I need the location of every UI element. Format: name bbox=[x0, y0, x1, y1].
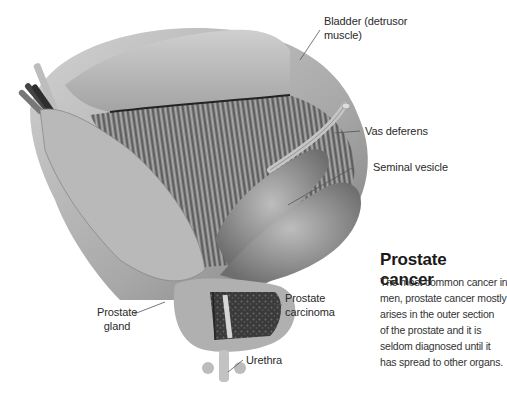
label-seminal-vesicle: Seminal vesicle bbox=[373, 160, 448, 174]
figure-description: The most common cancer in men, prostate … bbox=[380, 274, 492, 370]
label-urethra: Urethra bbox=[246, 353, 282, 367]
label-vas-deferens: Vas deferens bbox=[365, 124, 428, 138]
label-prostate-gland: Prostate gland bbox=[97, 305, 137, 333]
urethra bbox=[219, 350, 229, 382]
label-prostate-carcinoma: Prostate carcinoma bbox=[285, 291, 335, 319]
prostate-carcinoma bbox=[210, 292, 281, 340]
label-bladder: Bladder (detrusor muscle) bbox=[324, 14, 407, 42]
